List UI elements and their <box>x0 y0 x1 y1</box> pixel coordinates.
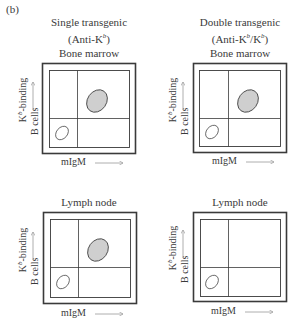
y-axis-label: Kb-binding B cells <box>164 211 191 285</box>
population-outline <box>203 123 221 142</box>
x-axis-label: mIgM <box>61 156 86 167</box>
population-shaded <box>83 235 112 266</box>
x-axis-label: mIgM <box>61 307 86 318</box>
plot-double-bone-marrow <box>194 64 287 153</box>
plot-single-bone-marrow <box>43 64 136 154</box>
population-shaded <box>82 86 111 117</box>
population-outline <box>203 273 221 292</box>
plot-single-lymph-node <box>44 213 137 304</box>
y-axis-label: Kb-binding B cells <box>164 63 191 137</box>
plots-svg <box>0 0 289 325</box>
population-outline <box>54 273 72 292</box>
plot-double-lymph-node <box>194 213 287 302</box>
population-shaded <box>233 86 262 117</box>
y-axis-label: Kb-binding B cells <box>14 63 41 137</box>
x-axis-label: mIgM <box>211 305 236 316</box>
y-axis-label: Kb-binding B cells <box>14 213 41 287</box>
population-outline <box>53 124 71 143</box>
x-axis-label: mIgM <box>212 155 237 166</box>
